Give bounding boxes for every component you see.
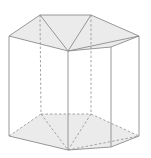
prism-svg	[0, 0, 151, 158]
top-face	[9, 15, 139, 51]
prism-diagram	[0, 0, 151, 158]
bottom-face	[9, 114, 139, 150]
